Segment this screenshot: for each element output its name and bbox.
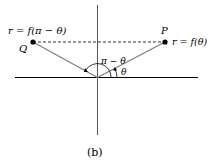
p-point-label: P [160,25,168,36]
angle-outer-label: π − θ [100,56,126,66]
point-q-marker [30,39,35,44]
p-equation-label: r = f(θ) [172,36,207,47]
point-p-marker [162,39,167,44]
figure-caption: (b) [87,146,103,159]
angle-inner-label: θ [121,67,127,77]
ray-to-q [33,42,98,78]
q-point-label: Q [19,43,27,54]
q-equation-label: r = f(π − θ) [8,25,66,36]
polar-symmetry-diagram: r = f(π − θ) Q P r = f(θ) π − θ θ (b) [0,0,221,164]
